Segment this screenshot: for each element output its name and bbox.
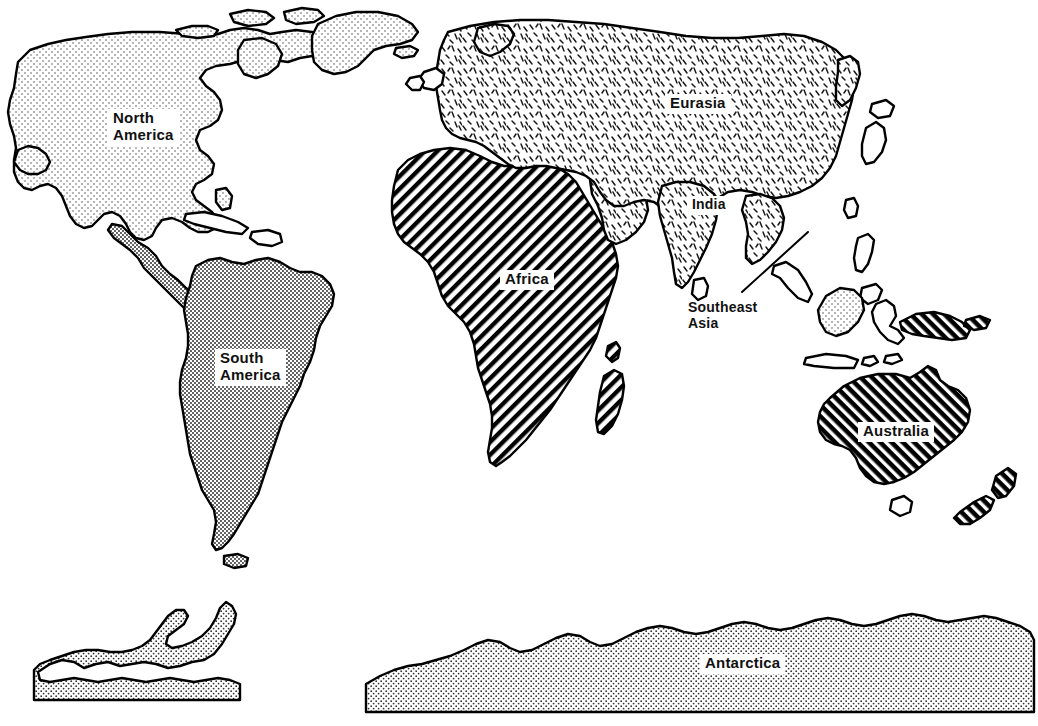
landmass-tasmania xyxy=(890,496,912,516)
landmass-java-small-1 xyxy=(862,356,878,366)
landmass-iceland xyxy=(394,46,418,58)
landmass-ireland xyxy=(406,76,424,90)
landmass-hokkaido xyxy=(870,100,894,118)
landmass-taiwan xyxy=(844,198,858,218)
landmass-canadian-arctic-2 xyxy=(230,10,274,26)
world-map-figure: North America South America Africa Euras… xyxy=(0,0,1038,726)
landmass-tierra-del-fuego xyxy=(224,554,248,568)
landmass-florida-keys xyxy=(216,188,232,210)
landmass-canadian-arctic-1 xyxy=(176,26,218,38)
landmass-java xyxy=(804,354,858,368)
landmass-small-island-africa-east xyxy=(606,342,620,362)
landmass-sri-lanka xyxy=(692,278,708,300)
world-map-svg xyxy=(0,0,1038,726)
